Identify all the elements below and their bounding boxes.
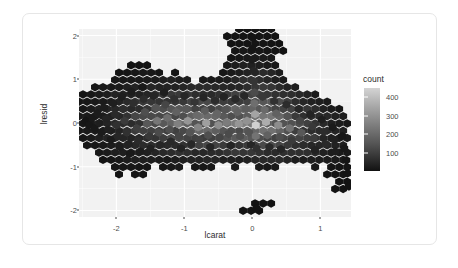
hexbin-cell (91, 83, 99, 91)
hexbin-cell (139, 156, 147, 164)
hexbin-cell (231, 163, 239, 171)
y-axis-ticklabels: 210-1-2 (53, 29, 77, 217)
hexbin-cell (115, 68, 123, 76)
hexbin-cell (227, 83, 235, 91)
hexbin-cell (139, 170, 147, 178)
y-tick-label: 1 (73, 75, 77, 84)
hexbin-cell (115, 83, 123, 91)
hexbin-cell (111, 90, 119, 98)
hexbin-cell (211, 156, 219, 164)
hexbin-cell (275, 156, 283, 164)
hexbin-cell (171, 83, 179, 91)
hexbin-cell (315, 97, 323, 105)
hexbin-cell (115, 170, 123, 178)
hexbin-cell (271, 61, 279, 69)
hexbin-cell (215, 76, 223, 84)
hexbin-cell (287, 90, 295, 98)
y-tick-label: 0 (73, 119, 77, 128)
hexbin-cell (239, 76, 247, 84)
hexbin-cell (83, 141, 91, 149)
hexbin-cell (275, 39, 283, 47)
hexbin-cell (135, 61, 143, 69)
hexbin-cell (327, 163, 335, 171)
hexbin-cell (79, 90, 87, 98)
hexbin-cell (91, 97, 99, 105)
hexbin-cell (107, 156, 115, 164)
hexbin-cell (159, 76, 167, 84)
hexbin-cell (171, 68, 179, 76)
hexbin-cell (235, 39, 243, 47)
hexbin-cell (127, 163, 135, 171)
hexbin-cell (99, 141, 107, 149)
hexbin-cell (131, 68, 139, 76)
hexbin-cell (95, 148, 103, 156)
hexbin-cell (231, 32, 239, 40)
hexbin-cell (239, 206, 247, 214)
hexbin-plot: 210-1-2 -2-101 lresid lcarat count 40030… (23, 14, 438, 246)
hexbin-cell (167, 76, 175, 84)
hexbin-cell (271, 32, 279, 40)
hexbin-cell (135, 76, 143, 84)
hexbin-cell (235, 68, 243, 76)
hexbin-cell (219, 156, 227, 164)
hexbin-cell (127, 61, 135, 69)
hexbin-cell (211, 83, 219, 91)
hexbin-cell (295, 90, 303, 98)
hexbin-cell (187, 83, 195, 91)
hexbin-cell (291, 156, 299, 164)
hexbin-cell (259, 83, 267, 91)
hexbin-cell (123, 68, 131, 76)
hexbin-cell (239, 148, 247, 156)
legend-title: count (363, 74, 384, 84)
hexbin-cell (207, 76, 215, 84)
hexbin-cell (147, 156, 155, 164)
hexbin-cell (167, 148, 175, 156)
hexbin-cell (143, 76, 151, 84)
hexbin-cell (199, 148, 207, 156)
hexbin-cell (323, 170, 331, 178)
hexbin-cell (291, 97, 299, 105)
hexbin-cell (251, 156, 259, 164)
hexbin-cell (171, 156, 179, 164)
hexbin-cell (311, 90, 319, 98)
hexbin-cell (155, 156, 163, 164)
hexbin-cell (219, 141, 227, 149)
hexbin-cell (167, 163, 175, 171)
hexbin-cell (135, 163, 143, 171)
hexbin-cell (227, 156, 235, 164)
hexbin-cell (267, 83, 275, 91)
hexbin-cell (323, 97, 331, 105)
hexbin-cell (127, 76, 135, 84)
hexbin-cell (79, 97, 83, 105)
hexbin-cell (295, 148, 303, 156)
hexbin-cell (231, 47, 239, 55)
hexbin-cell (271, 90, 279, 98)
hexbin-cell (223, 32, 231, 40)
hexbin-cell (163, 156, 171, 164)
hexbin-cell (119, 76, 127, 84)
hexbin-cell (203, 156, 211, 164)
hexbin-cell (119, 163, 127, 171)
chart-card: 210-1-2 -2-101 lresid lcarat count 40030… (22, 13, 437, 245)
hexbin-cell (87, 134, 95, 142)
hexbin-cell (275, 68, 283, 76)
hexbin-cell (191, 163, 199, 171)
hexbin-cell (279, 47, 287, 55)
hexbin-cell (267, 54, 275, 62)
hexbin-cell (291, 83, 299, 91)
hexbin-cell (239, 32, 247, 40)
hexbin-cell (131, 156, 139, 164)
hexbin-cell (227, 39, 235, 47)
hexbin-cell (151, 76, 159, 84)
legend-gradient-bar (364, 88, 380, 171)
hexbin-cell (235, 156, 243, 164)
hexbin-cell (143, 61, 151, 69)
hexbin-cell (263, 61, 271, 69)
hexbin-cell (199, 163, 207, 171)
hexbin-cell (199, 76, 207, 84)
hexbin-cell (255, 163, 263, 171)
hexbin-cell (191, 148, 199, 156)
hexbin-cell (263, 163, 271, 171)
plot-panel (79, 29, 351, 217)
hexbin-cell (303, 90, 311, 98)
